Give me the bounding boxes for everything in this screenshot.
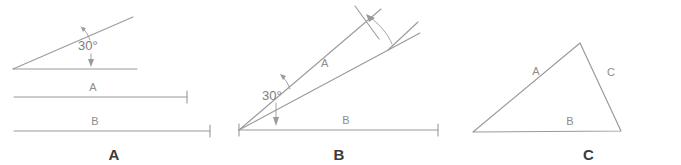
segment-label-b: B	[91, 115, 98, 127]
side-label-c: C	[607, 66, 615, 78]
panel-b: 30° A B B	[228, 0, 450, 165]
segment-label-a: A	[89, 81, 97, 93]
panel-a-drawing: 30° A B	[0, 0, 228, 165]
panel-a: 30° A B A	[0, 0, 228, 165]
inclined-ray	[13, 17, 133, 69]
panel-c: A B C C	[450, 0, 681, 165]
triangle	[473, 43, 621, 132]
panel-c-caption: C	[450, 146, 681, 164]
panel-a-caption: A	[0, 146, 228, 164]
panel-c-drawing: A B C	[450, 0, 681, 165]
panel-b-drawing: 30° A B	[228, 0, 450, 165]
segment-label-a: A	[321, 57, 329, 69]
side-label-b: B	[566, 115, 573, 127]
panel-b-caption: B	[228, 146, 450, 164]
extension-tick-upper	[355, 6, 379, 39]
angle-label: 30°	[78, 38, 98, 53]
segment-label-b: B	[342, 114, 349, 126]
lower-ray	[239, 33, 420, 130]
upper-ray	[239, 9, 381, 130]
angle-label: 30°	[262, 88, 282, 103]
figure-root: 30° A B A	[0, 0, 681, 165]
side-label-a: A	[532, 65, 540, 77]
